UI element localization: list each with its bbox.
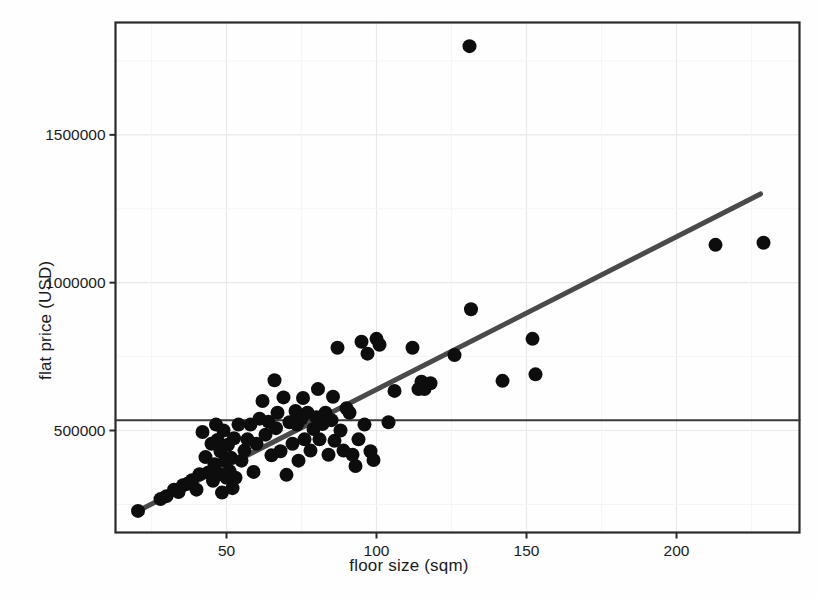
data-point bbox=[304, 444, 318, 458]
data-point bbox=[331, 341, 345, 355]
data-point bbox=[196, 425, 210, 439]
data-point bbox=[406, 341, 420, 355]
data-point bbox=[373, 338, 387, 352]
data-point bbox=[349, 459, 363, 473]
data-point bbox=[280, 468, 294, 482]
data-point bbox=[271, 406, 285, 420]
data-point bbox=[286, 437, 300, 451]
data-point bbox=[229, 471, 243, 485]
y-tick-label: 500000 bbox=[54, 422, 106, 440]
x-axis-title: floor size (sqm) bbox=[0, 556, 818, 576]
data-point bbox=[247, 465, 261, 479]
data-point bbox=[292, 454, 306, 468]
data-point bbox=[526, 332, 540, 346]
data-point bbox=[190, 483, 204, 497]
x-tick-label: 150 bbox=[514, 542, 540, 560]
data-point bbox=[232, 418, 246, 432]
data-point bbox=[311, 382, 325, 396]
scatter-plot-figure: floor size (sqm) flat price (USD) 501001… bbox=[0, 0, 818, 598]
data-point bbox=[352, 432, 366, 446]
data-point bbox=[358, 418, 372, 432]
data-point bbox=[529, 367, 543, 381]
data-point bbox=[388, 384, 402, 398]
data-point bbox=[464, 302, 478, 316]
y-tick-label: 1000000 bbox=[45, 274, 105, 292]
x-tick-label: 100 bbox=[364, 542, 390, 560]
data-point bbox=[256, 394, 270, 408]
data-point bbox=[496, 374, 510, 388]
data-point bbox=[326, 390, 340, 404]
data-point bbox=[709, 238, 723, 252]
data-point bbox=[131, 504, 145, 518]
y-tick-label: 1500000 bbox=[45, 126, 105, 144]
x-tick-label: 200 bbox=[664, 542, 690, 560]
data-point bbox=[313, 432, 327, 446]
data-point bbox=[277, 390, 291, 404]
plot-canvas bbox=[0, 0, 818, 598]
data-point bbox=[361, 347, 375, 361]
data-point bbox=[367, 453, 381, 467]
data-point bbox=[334, 424, 348, 438]
data-point bbox=[274, 444, 288, 458]
data-point bbox=[268, 373, 282, 387]
data-point bbox=[343, 406, 357, 420]
x-tick-label: 50 bbox=[218, 542, 235, 560]
data-point bbox=[355, 335, 369, 349]
data-point bbox=[757, 236, 771, 250]
data-point bbox=[463, 39, 477, 53]
data-point bbox=[322, 448, 336, 462]
data-point bbox=[269, 421, 283, 435]
data-point bbox=[424, 376, 438, 390]
data-point bbox=[296, 391, 310, 405]
data-point bbox=[227, 431, 241, 445]
data-point bbox=[382, 415, 396, 429]
data-point bbox=[448, 348, 462, 362]
